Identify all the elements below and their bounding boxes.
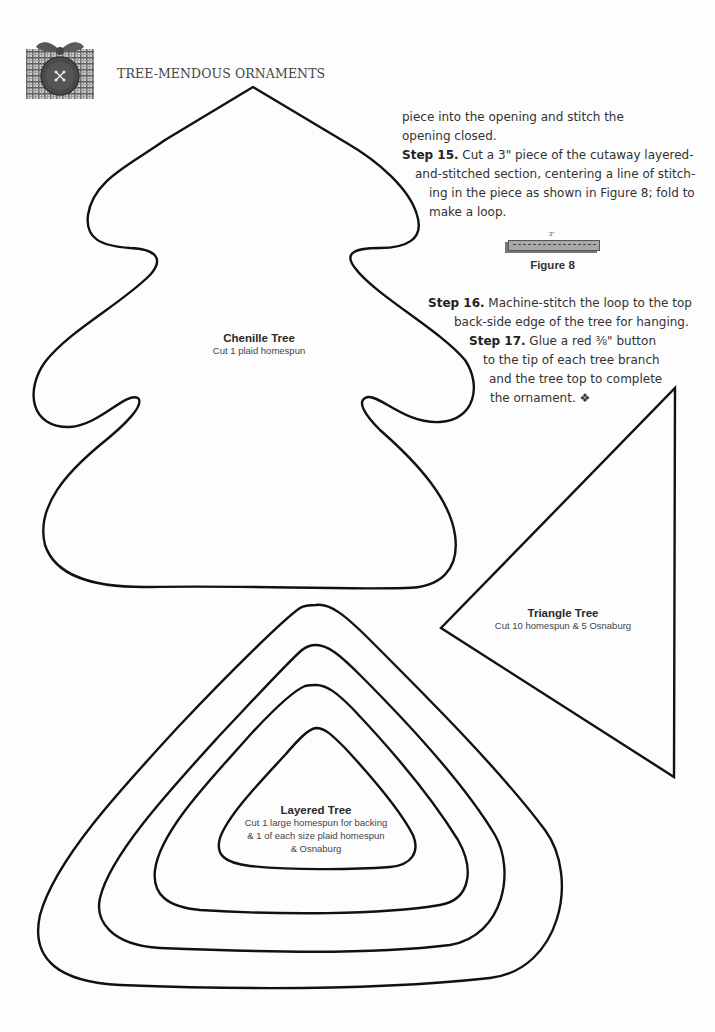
instruction-line: to the tip of each tree branch <box>483 351 660 370</box>
figure-8-dimension: 3" <box>549 231 554 237</box>
instruction-line: the ornament. ❖ <box>490 389 590 408</box>
layered-tree-instructions-1: Cut 1 large homespun for backing <box>226 816 406 829</box>
layered-ring-2 <box>99 645 504 952</box>
layered-tree-label: Layered Tree Cut 1 large homespun for ba… <box>226 804 406 855</box>
instruction-line: opening closed. <box>402 127 497 146</box>
triangle-tree-title: Triangle Tree <box>478 607 648 619</box>
instruction-line: make a loop. <box>429 203 506 222</box>
layered-ring-1 <box>38 605 562 988</box>
loop-strip-illustration <box>508 240 600 251</box>
stitch-line <box>513 244 596 245</box>
figure-8: 3" Figure 8 <box>505 231 600 275</box>
page-header-title: TREE-MENDOUS ORNAMENTS <box>117 66 325 81</box>
layered-tree-instructions-2: & 1 of each size plaid homespun <box>226 829 406 842</box>
pattern-page: TREE-MENDOUS ORNAMENTS piece into the op… <box>0 0 715 1032</box>
layered-tree-rings <box>38 605 562 988</box>
instruction-line: and the tree top to complete <box>489 370 662 389</box>
instruction-line: ing in the piece as shown in Figure 8; f… <box>429 184 695 203</box>
layered-tree-title: Layered Tree <box>226 804 406 816</box>
instruction-line: back-side edge of the tree for hanging. <box>454 313 689 332</box>
figure-8-caption: Figure 8 <box>505 259 600 271</box>
chenille-tree-label: Chenille Tree Cut 1 plaid homespun <box>184 332 334 357</box>
plaid-button-ornament-photo <box>26 33 94 99</box>
step-16: Step 16. Machine-stitch the loop to the … <box>428 294 692 313</box>
step-17: Step 17. Glue a red ⅜" button <box>469 332 656 351</box>
step-15: Step 15. Cut a 3" piece of the cutaway l… <box>402 146 694 165</box>
triangle-tree-outline <box>441 388 675 777</box>
layered-ring-3 <box>155 685 468 913</box>
layered-tree-instructions-3: & Osnaburg <box>226 842 406 855</box>
instruction-line: and-stitched section, centering a line o… <box>415 165 695 184</box>
chenille-tree-title: Chenille Tree <box>184 332 334 344</box>
chenille-tree-instructions: Cut 1 plaid homespun <box>184 344 334 357</box>
triangle-tree-label: Triangle Tree Cut 10 homespun & 5 Osnabu… <box>478 607 648 632</box>
instruction-line: piece into the opening and stitch the <box>402 108 624 127</box>
triangle-tree-instructions: Cut 10 homespun & 5 Osnaburg <box>478 619 648 632</box>
